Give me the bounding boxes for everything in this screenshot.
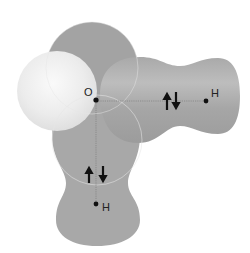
oxygen-label: O: [84, 86, 93, 98]
bottom-hydrogen-label: H: [102, 201, 110, 213]
oxygen-nucleus: [93, 97, 98, 102]
right-hydrogen-nucleus: [204, 99, 209, 104]
water-orbital-diagram: O H H: [0, 0, 250, 253]
bottom-hydrogen-nucleus: [94, 202, 99, 207]
right-hydrogen-label: H: [211, 87, 219, 99]
